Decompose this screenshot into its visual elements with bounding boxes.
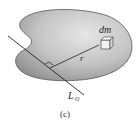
rigid-body-shape <box>16 10 132 81</box>
diagram-canvas: dm r L O (c) <box>0 0 140 128</box>
mass-element-cube <box>101 37 113 49</box>
label-r: r <box>80 53 84 63</box>
label-axis-L: L <box>67 90 74 101</box>
label-axis-subscript: O <box>75 96 80 102</box>
label-dm: dm <box>99 24 111 35</box>
figure-caption: (c) <box>60 109 70 119</box>
